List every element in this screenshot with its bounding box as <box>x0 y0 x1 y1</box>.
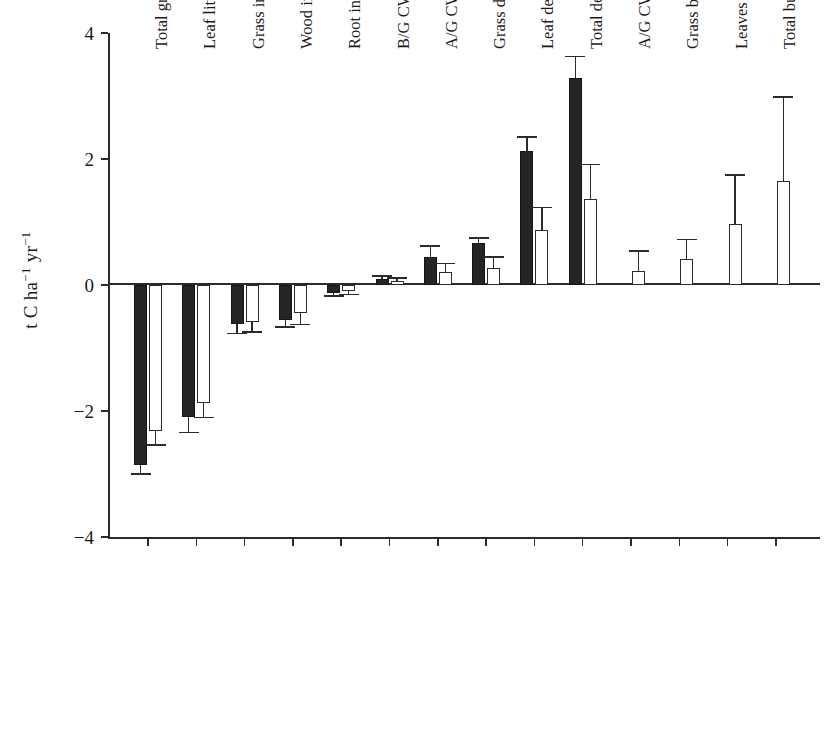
error-bar-stem <box>686 240 687 259</box>
x-tick <box>340 537 342 546</box>
x-tick <box>147 537 149 546</box>
bar-open <box>439 272 452 285</box>
error-bar-cap <box>580 164 600 166</box>
bar-solid <box>134 285 147 465</box>
error-bar-cap <box>565 56 585 58</box>
error-bar-stem <box>155 431 156 445</box>
bar-open <box>391 281 404 285</box>
bar-solid <box>182 285 195 417</box>
bar-solid <box>569 78 582 285</box>
y-axis-title-sup1: −1 <box>18 267 33 281</box>
x-axis-label: A/G CWD burned <box>637 33 654 49</box>
figure-root: t C ha−1 yr−1 420−2−4 Total growthLeaf l… <box>0 0 830 753</box>
y-axis-title-sup2: −1 <box>18 231 33 245</box>
error-bar-stem <box>575 56 576 77</box>
error-bar-cap <box>435 263 455 265</box>
x-axis-line <box>108 537 820 539</box>
error-bar-cap <box>275 326 295 328</box>
y-tick-label: −2 <box>34 402 94 421</box>
error-bar-stem <box>188 417 189 432</box>
error-bar-cap <box>179 432 199 434</box>
error-bar-stem <box>541 208 542 231</box>
error-bar-cap <box>469 237 489 239</box>
bar-solid <box>231 285 244 324</box>
x-tick <box>534 537 536 546</box>
y-tick-label: 4 <box>34 24 94 43</box>
x-axis-label: Leaf decomp <box>540 33 557 49</box>
error-bar-stem <box>430 246 431 257</box>
x-tick <box>582 537 584 546</box>
error-bar-cap <box>725 174 745 176</box>
error-bar-stem <box>783 97 784 181</box>
x-axis-label: Leaves burned <box>734 33 751 49</box>
x-axis-label: Grass input <box>251 33 268 49</box>
x-tick <box>727 537 729 546</box>
x-tick <box>630 537 632 546</box>
bar-open <box>487 268 500 285</box>
error-bar-cap <box>339 294 359 296</box>
bar-solid <box>472 243 485 285</box>
bar-solid <box>424 257 437 285</box>
y-axis-title-mid: yr <box>20 246 41 267</box>
error-bar-cap <box>387 277 407 279</box>
error-bar-cap <box>629 250 649 252</box>
bar-open <box>632 271 645 285</box>
x-axis-label: Leaf litter input <box>202 33 219 49</box>
error-bar-cap <box>131 473 151 475</box>
bar-open <box>729 224 742 285</box>
error-bar-stem <box>493 257 494 268</box>
bar-solid <box>327 285 340 293</box>
x-axis-label: Grass burned <box>685 33 702 49</box>
error-bar-cap <box>677 239 697 241</box>
error-bar-cap <box>420 245 440 247</box>
plot-area: 420−2−4 Total growthLeaf litter inputGra… <box>108 33 820 537</box>
error-bar-cap <box>484 256 504 258</box>
x-axis-label: Total decomp <box>589 33 606 49</box>
bar-open <box>584 199 597 285</box>
x-tick <box>485 537 487 546</box>
x-axis-label: A/G CWD decomp <box>444 33 461 49</box>
x-tick <box>775 537 777 546</box>
error-bar-cap <box>242 331 262 333</box>
bar-solid <box>376 279 389 285</box>
x-axis-label: Grass decomp <box>492 33 509 49</box>
y-tick <box>101 32 108 34</box>
y-tick-label: −4 <box>34 528 94 547</box>
y-tick <box>101 158 108 160</box>
y-tick <box>101 410 108 412</box>
bar-open <box>294 285 307 313</box>
error-bar-cap <box>194 417 214 419</box>
y-tick-label: 0 <box>34 276 94 295</box>
error-bar-cap <box>517 136 537 138</box>
error-bar-stem <box>445 264 446 272</box>
x-tick <box>292 537 294 546</box>
error-bar-stem <box>203 403 204 417</box>
bar-solid <box>520 151 533 285</box>
y-tick-label: 2 <box>34 150 94 169</box>
x-axis-label: Wood input <box>299 33 316 49</box>
error-bar-stem <box>734 175 735 224</box>
error-bar-cap <box>532 207 552 209</box>
x-tick <box>679 537 681 546</box>
x-axis-label: Root input <box>347 33 364 49</box>
bar-open <box>197 285 210 403</box>
error-bar-stem <box>638 251 639 271</box>
y-tick <box>101 284 108 286</box>
bar-solid <box>279 285 292 320</box>
y-tick <box>101 536 108 538</box>
error-bar-stem <box>526 137 527 151</box>
x-tick <box>244 537 246 546</box>
bar-open <box>246 285 259 322</box>
error-bar-stem <box>590 165 591 199</box>
error-bar-cap <box>773 96 793 98</box>
bar-open <box>535 230 548 285</box>
bar-open <box>680 259 693 285</box>
x-tick <box>196 537 198 546</box>
x-axis-label: B/G CWD decomp <box>396 33 413 49</box>
bar-open <box>777 181 790 285</box>
x-axis-label: Total burned <box>782 33 799 49</box>
x-tick <box>389 537 391 546</box>
bar-open <box>149 285 162 431</box>
zero-baseline <box>108 283 820 285</box>
x-tick <box>437 537 439 546</box>
